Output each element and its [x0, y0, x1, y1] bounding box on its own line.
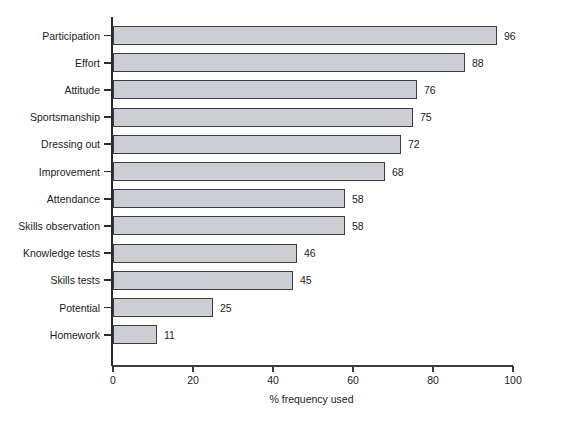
y-axis-tick: [104, 116, 113, 118]
category-label-slot: Knowledge tests: [0, 244, 100, 263]
bar: [113, 108, 413, 127]
y-axis-tick: [104, 252, 113, 254]
category-label-slot: Homework: [0, 325, 100, 344]
bar-value-label: 45: [300, 275, 312, 286]
bar-row: 45: [113, 271, 513, 290]
x-axis-tick: [272, 366, 273, 372]
x-axis-tick: [112, 366, 113, 372]
category-label: Participation: [42, 30, 100, 41]
x-axis-tick: [352, 366, 353, 372]
plot-area: 968876757268585846452511: [113, 17, 513, 366]
x-axis-tick: [192, 366, 193, 372]
bar-row: 88: [113, 53, 513, 72]
category-label-slot: Attitude: [0, 80, 100, 99]
category-label: Homework: [50, 329, 100, 340]
bar-value-label: 96: [504, 30, 516, 41]
bar-value-label: 58: [352, 193, 364, 204]
y-axis-tick: [104, 334, 113, 336]
x-axis-tick-label: 40: [267, 375, 279, 386]
category-label: Attendance: [47, 193, 100, 204]
bar-row: 72: [113, 135, 513, 154]
bar-row: 58: [113, 216, 513, 235]
y-axis-tick: [104, 198, 113, 200]
category-label: Improvement: [39, 166, 100, 177]
category-label-slot: Potential: [0, 298, 100, 317]
category-label: Skills tests: [50, 275, 100, 286]
y-axis-tick: [104, 279, 113, 281]
category-label-slot: Skills tests: [0, 271, 100, 290]
category-label: Sportsmanship: [30, 112, 100, 123]
bar: [113, 189, 345, 208]
category-label-slot: Effort: [0, 53, 100, 72]
bar-value-label: 46: [304, 248, 316, 259]
category-label: Dressing out: [41, 139, 100, 150]
bar: [113, 271, 293, 290]
bar: [113, 298, 213, 317]
bar-value-label: 76: [424, 85, 436, 96]
x-axis-tick: [432, 366, 433, 372]
bar-row: 25: [113, 298, 513, 317]
bar-row: 58: [113, 189, 513, 208]
x-axis-tick-label: 0: [110, 375, 116, 386]
bar-value-label: 72: [408, 139, 420, 150]
category-label-slot: Sportsmanship: [0, 108, 100, 127]
bar: [113, 325, 157, 344]
x-axis-tick-label: 80: [427, 375, 439, 386]
bar: [113, 53, 465, 72]
category-label-slot: Attendance: [0, 189, 100, 208]
category-label: Potential: [59, 302, 100, 313]
bar: [113, 216, 345, 235]
bar-value-label: 68: [392, 166, 404, 177]
bar-row: 68: [113, 162, 513, 181]
bar: [113, 135, 401, 154]
bar: [113, 80, 417, 99]
bar-row: 11: [113, 325, 513, 344]
bar-chart-figure: ParticipationEffortAttitudeSportsmanship…: [0, 0, 565, 422]
category-label-slot: Dressing out: [0, 135, 100, 154]
bar-row: 75: [113, 108, 513, 127]
category-label: Skills observation: [18, 221, 100, 232]
bar-row: 96: [113, 26, 513, 45]
bar-value-label: 11: [164, 329, 175, 340]
x-axis-tick-label: 20: [187, 375, 199, 386]
x-axis-tick-label: 60: [347, 375, 359, 386]
x-axis-tick-label: 100: [504, 375, 522, 386]
y-axis-tick: [104, 143, 113, 145]
category-label-slot: Participation: [0, 26, 100, 45]
x-axis-title: % frequency used: [0, 394, 565, 405]
y-axis-tick: [104, 225, 113, 227]
x-axis-title-text: % frequency used: [269, 393, 353, 405]
bar: [113, 26, 497, 45]
bar: [113, 162, 385, 181]
bar-value-label: 58: [352, 221, 364, 232]
bar-value-label: 75: [420, 112, 432, 123]
bar-value-label: 88: [472, 57, 484, 68]
y-axis-tick: [104, 62, 113, 64]
bar-row: 76: [113, 80, 513, 99]
bar-value-label: 25: [220, 302, 232, 313]
bar-row: 46: [113, 244, 513, 263]
category-label: Attitude: [64, 85, 100, 96]
category-label: Knowledge tests: [23, 248, 100, 259]
category-label-slot: Skills observation: [0, 216, 100, 235]
category-label: Effort: [75, 57, 100, 68]
y-axis-tick: [104, 89, 113, 91]
category-label-slot: Improvement: [0, 162, 100, 181]
y-axis-tick: [104, 171, 113, 173]
x-axis-tick: [512, 366, 513, 372]
y-axis-tick: [104, 307, 113, 309]
bar: [113, 244, 297, 263]
y-axis-tick: [104, 35, 113, 37]
